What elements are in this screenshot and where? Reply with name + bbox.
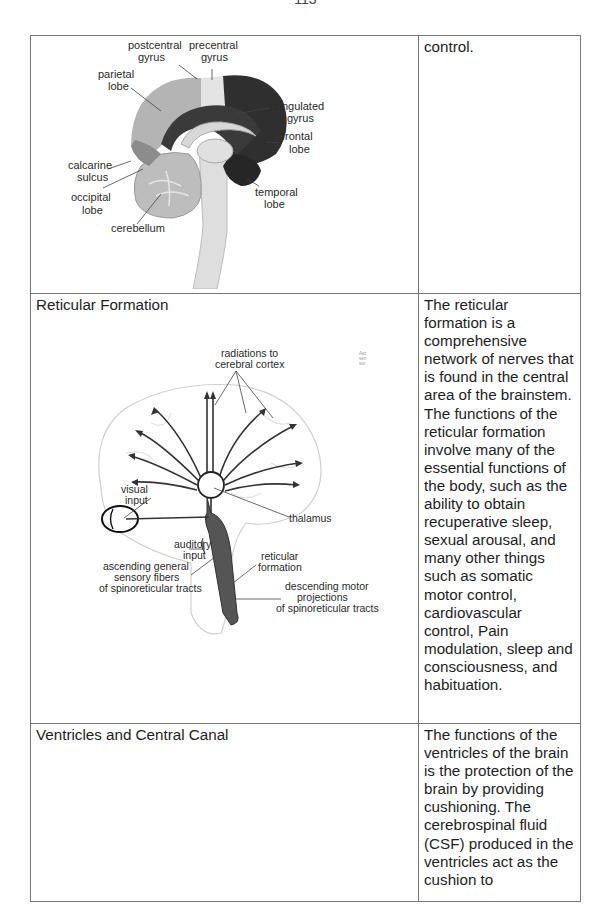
svg-text:lobe: lobe <box>264 198 285 210</box>
brain-lobes-illustration: postcentral gyrus precentral gyrus parie… <box>31 36 418 289</box>
table-row: Reticular Formation <box>31 294 581 724</box>
structure-title: Ventricles and Central Canal <box>31 724 418 743</box>
table-row: postcentral gyrus precentral gyrus parie… <box>31 36 581 294</box>
svg-text:gyrus: gyrus <box>287 112 314 124</box>
page-number: 113 <box>0 0 611 7</box>
svg-text:calcarine: calcarine <box>68 159 112 171</box>
description-text: The reticular formation is a comprehensi… <box>419 294 580 694</box>
reticular-formation-illustration: radiations to cerebral cortex visual inp… <box>31 313 418 703</box>
structure-cell: Reticular Formation <box>31 294 419 724</box>
description-cell: control. <box>419 36 581 294</box>
svg-text:lobe: lobe <box>82 204 103 216</box>
svg-text:frontal: frontal <box>282 130 313 142</box>
svg-text:cerebral cortex: cerebral cortex <box>215 358 285 370</box>
svg-text:thalamus: thalamus <box>289 512 332 524</box>
svg-text:cingulated: cingulated <box>274 100 324 112</box>
description-text: The functions of the ventricles of the b… <box>419 724 580 889</box>
reticular-diagram: radiations to cerebral cortex visual inp… <box>31 313 418 707</box>
description-text: control. <box>419 36 580 56</box>
brain-structures-table: postcentral gyrus precentral gyrus parie… <box>30 35 581 902</box>
svg-text:sor: sor <box>359 361 366 366</box>
svg-text:gyrus: gyrus <box>201 51 228 63</box>
svg-text:lobe: lobe <box>289 143 310 155</box>
svg-text:of spinoreticular tracts: of spinoreticular tracts <box>276 602 379 614</box>
structure-cell: postcentral gyrus precentral gyrus parie… <box>31 36 419 294</box>
structure-title: Reticular Formation <box>31 294 418 313</box>
svg-text:postcentral: postcentral <box>128 39 182 51</box>
svg-text:lobe: lobe <box>108 80 129 92</box>
svg-text:temporal: temporal <box>255 186 298 198</box>
svg-text:sulcus: sulcus <box>77 171 109 183</box>
description-cell: The reticular formation is a comprehensi… <box>419 294 581 724</box>
svg-text:cerebellum: cerebellum <box>111 222 165 234</box>
svg-text:of spinoreticular tracts: of spinoreticular tracts <box>99 582 202 594</box>
svg-text:precentral: precentral <box>189 39 238 51</box>
brain-lobes-diagram: postcentral gyrus precentral gyrus parie… <box>31 36 418 293</box>
description-cell: The functions of the ventricles of the b… <box>419 724 581 902</box>
table-row: Ventricles and Central Canal The functio… <box>31 724 581 902</box>
structure-cell: Ventricles and Central Canal <box>31 724 419 902</box>
svg-text:formation: formation <box>258 561 302 573</box>
svg-text:occipital: occipital <box>71 191 111 203</box>
svg-text:input: input <box>125 494 148 506</box>
svg-text:gyrus: gyrus <box>138 51 165 63</box>
svg-text:parietal: parietal <box>98 68 134 80</box>
